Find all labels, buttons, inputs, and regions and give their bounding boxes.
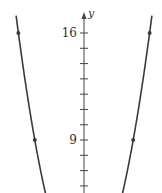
y-tick-label: 9 — [69, 133, 77, 147]
y-axis-tick-labels: 169 — [62, 26, 77, 147]
curve-right-branch — [122, 16, 152, 193]
curve-left-branch — [16, 16, 46, 193]
y-axis-label: y — [87, 7, 95, 20]
axis-arrow-icon — [82, 12, 87, 19]
y-tick-label: 16 — [62, 26, 77, 40]
data-point — [16, 31, 20, 35]
parabola-chart: 169 y — [0, 0, 162, 193]
data-point — [148, 31, 152, 35]
data-point — [33, 138, 37, 142]
y-axis — [82, 12, 87, 193]
data-point — [131, 138, 135, 142]
